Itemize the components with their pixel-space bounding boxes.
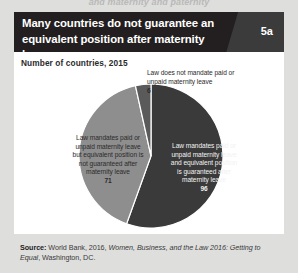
pie-label-guaranteed-text: Law mandates paid or unpaid maternity le… bbox=[171, 142, 237, 183]
header-wedge-shape bbox=[222, 12, 284, 52]
page-running-text: and maternity and paternity bbox=[0, 0, 298, 9]
source-text-2: , Washington, DC. bbox=[38, 253, 95, 262]
figure-header: Many countries do not guarantee an equiv… bbox=[14, 12, 284, 52]
figure-number-badge: 5a bbox=[261, 25, 273, 37]
pie-label-not-guaranteed-text: Law mandates paid or unpaid maternity le… bbox=[73, 134, 144, 175]
figure-title: Many countries do not guarantee an equiv… bbox=[22, 16, 230, 52]
source-label: Source: bbox=[20, 243, 46, 252]
chart-subtitle: Number of countries, 2015 bbox=[21, 58, 128, 68]
pie-label-no-mandate-text: Law does not mandate paid or unpaid mate… bbox=[147, 69, 234, 85]
figure-title-line-1: Many countries do not guarantee an bbox=[22, 16, 230, 32]
figure-card: Many countries do not guarantee an equiv… bbox=[14, 12, 284, 234]
figure-title-line-2: equivalent position after maternity leav… bbox=[22, 32, 230, 53]
pie-label-guaranteed: Law mandates paid or unpaid maternity le… bbox=[169, 142, 239, 194]
pie-label-no-mandate: Law does not mandate paid or unpaid mate… bbox=[147, 69, 239, 95]
pie-value-not-guaranteed: 71 bbox=[70, 177, 146, 186]
pie-value-guaranteed: 96 bbox=[169, 185, 239, 194]
source-note: Source: World Bank, 2016, Women, Busines… bbox=[20, 243, 282, 263]
pie-label-not-guaranteed: Law mandates paid or unpaid maternity le… bbox=[70, 134, 146, 186]
chart-body: Number of countries, 2015 Law mandates p… bbox=[14, 52, 284, 234]
pie-value-no-mandate: 6 bbox=[147, 87, 239, 96]
source-text-1: World Bank, 2016, bbox=[46, 243, 108, 252]
